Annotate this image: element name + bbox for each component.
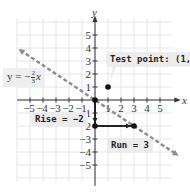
x-axis-label: x (181, 94, 187, 106)
x-tick-label: 2 (118, 102, 124, 114)
equation-variable: x (36, 70, 41, 82)
y-tick-label: −5 (79, 159, 91, 171)
equation-fraction: 23 (31, 70, 35, 85)
y-tick-label: 4 (86, 42, 92, 54)
rise-callout: Rise = −2 (31, 112, 88, 127)
test-point-callout: Test point: (1, 1) (106, 52, 190, 67)
y-tick-label: 3 (86, 55, 92, 67)
x-tick-label: 4 (144, 102, 150, 114)
point-test-point (105, 84, 111, 90)
y-tick-label: 2 (86, 68, 92, 80)
coordinate-plane: −5−4−3−2−11234554321−1−2−3−4−5 x y y = −… (0, 0, 190, 192)
point-origin (92, 97, 98, 103)
y-tick-label: −3 (79, 133, 91, 145)
x-tick-label: 3 (131, 102, 137, 114)
equation-lhs: y = − (7, 70, 30, 82)
y-tick-label: 5 (86, 29, 92, 41)
rise-run-segments (93, 56, 135, 128)
point-run-end (131, 123, 137, 129)
y-axis-label: y (91, 6, 97, 18)
graph-canvas: −5−4−3−2−11234554321−1−2−3−4−5 x y (0, 0, 190, 192)
x-axis-arrow-icon (174, 98, 181, 103)
equation-label: y = −23x (3, 68, 45, 87)
point-rise-end (92, 123, 98, 129)
run-callout: Run = 3 (107, 138, 153, 153)
line-arrow-left-icon (19, 49, 26, 55)
x-tick-label: 5 (157, 102, 163, 114)
axes (17, 16, 181, 186)
y-tick-label: −4 (79, 146, 91, 158)
fraction-denominator: 3 (31, 78, 35, 85)
y-tick-label: 1 (86, 81, 92, 93)
rise-arrow-icon (93, 118, 98, 123)
